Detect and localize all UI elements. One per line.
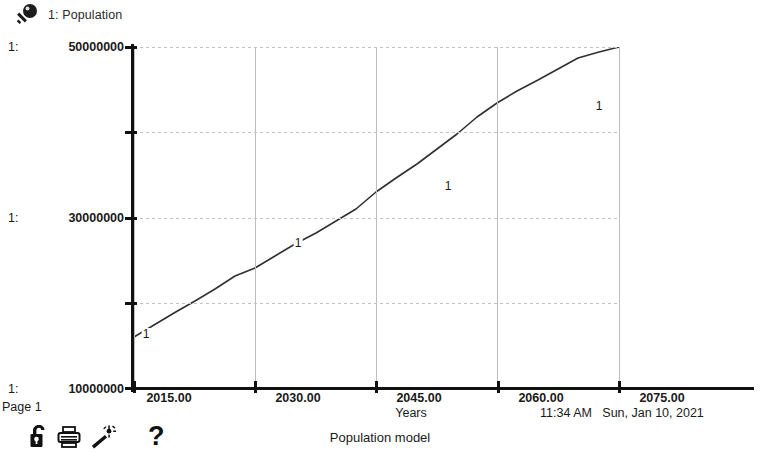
y-tick-index-4: 1: [8, 382, 18, 396]
y-tick-row-2: 1: 30000000 [0, 211, 128, 225]
model-title: Population model [330, 430, 430, 445]
page-label: Page 1 [2, 400, 42, 414]
y-tick-row-0: 1: 50000000 [0, 40, 128, 54]
horizontal-gridline-20000000 [134, 303, 620, 304]
series-marker-2045: 1 [444, 180, 453, 192]
stella-chart-page: 1: Population 1: 50000000 1: 30000000 1:… [0, 0, 761, 453]
y-tickmark-20000000 [125, 302, 137, 305]
y-tick-index-0: 1: [8, 40, 18, 54]
x-tickmark-2045 [375, 381, 378, 393]
x-tick-label-2075: 2075.00 [639, 391, 684, 405]
legend: 1: Population [14, 3, 122, 27]
y-tick-value-2: 30000000 [68, 211, 124, 225]
x-tick-label-2015: 2015.00 [146, 391, 191, 405]
y-tick-index-2: 1: [8, 211, 18, 225]
horizontal-gridline-50000000 [134, 47, 620, 48]
legend-label: 1: Population [48, 8, 122, 22]
y-tick-value-0: 50000000 [68, 40, 124, 54]
wand-icon[interactable] [90, 425, 116, 449]
key-icon [14, 3, 40, 27]
help-icon[interactable]: ? [146, 421, 166, 449]
series-marker-2030: 1 [294, 237, 303, 249]
timestamp: 11:34 AM Sun, Jan 10, 2021 [540, 406, 704, 420]
x-tickmark-2060 [497, 381, 500, 393]
horizontal-gridline-30000000 [134, 218, 620, 219]
plot-area: 1 1 1 1 [134, 47, 620, 389]
x-tickmark-2075 [618, 381, 621, 393]
y-tick-value-4: 10000000 [68, 382, 124, 396]
x-tick-label-2060: 2060.00 [518, 391, 563, 405]
y-tickmark-50000000 [125, 46, 137, 49]
x-axis-line [131, 387, 754, 390]
x-tickmark-2030 [254, 381, 257, 393]
x-tickmark-2015 [133, 381, 136, 393]
series-marker-2060: 1 [595, 100, 604, 112]
horizontal-gridline-40000000 [134, 132, 620, 133]
y-tickmark-40000000 [125, 131, 137, 134]
timestamp-date: Sun, Jan 10, 2021 [602, 406, 703, 420]
y-tickmark-30000000 [125, 217, 137, 220]
y-tick-row-4: 1: 10000000 [0, 382, 128, 396]
timestamp-time: 11:34 AM [540, 406, 592, 420]
x-axis-title: Years [395, 406, 427, 420]
x-tick-label-2045: 2045.00 [396, 391, 441, 405]
x-tick-label-2030: 2030.00 [275, 391, 320, 405]
series-marker-2015: 1 [142, 328, 151, 340]
toolbar: ? [28, 421, 166, 449]
unlock-icon[interactable] [28, 423, 48, 449]
printer-icon[interactable] [56, 425, 82, 449]
svg-text:?: ? [148, 421, 165, 449]
